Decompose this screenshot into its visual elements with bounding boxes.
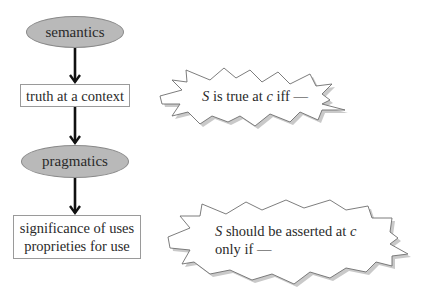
- callout-text-b: iff —: [273, 88, 308, 104]
- callout-assertion-condition: S should be asserted at c only if —: [215, 222, 356, 258]
- node-label-line2: proprieties for use: [24, 237, 130, 255]
- node-label-line1: significance of uses: [20, 219, 134, 237]
- arrow-semantics-to-truth: [70, 47, 80, 82]
- callout-text-a: is true at: [209, 88, 266, 104]
- node-pragmatics: pragmatics: [21, 145, 129, 178]
- node-significance: significance of uses proprieties for use: [13, 215, 141, 259]
- node-semantics: semantics: [26, 16, 124, 48]
- callout-line-2: only if —: [215, 240, 356, 258]
- node-label: pragmatics: [42, 153, 108, 170]
- callout-line-1: S should be asserted at c: [215, 222, 356, 240]
- node-label: truth at a context: [26, 87, 124, 105]
- node-truth-at-context: truth at a context: [20, 84, 130, 107]
- callout-truth-condition: S is true at c iff —: [202, 87, 308, 105]
- var-c: c: [350, 223, 356, 239]
- callout-text-a: should be asserted at: [222, 223, 350, 239]
- arrow-truth-to-pragmatics: [70, 106, 80, 143]
- arrow-pragmatics-to-significance: [70, 177, 80, 213]
- node-label: semantics: [45, 24, 104, 41]
